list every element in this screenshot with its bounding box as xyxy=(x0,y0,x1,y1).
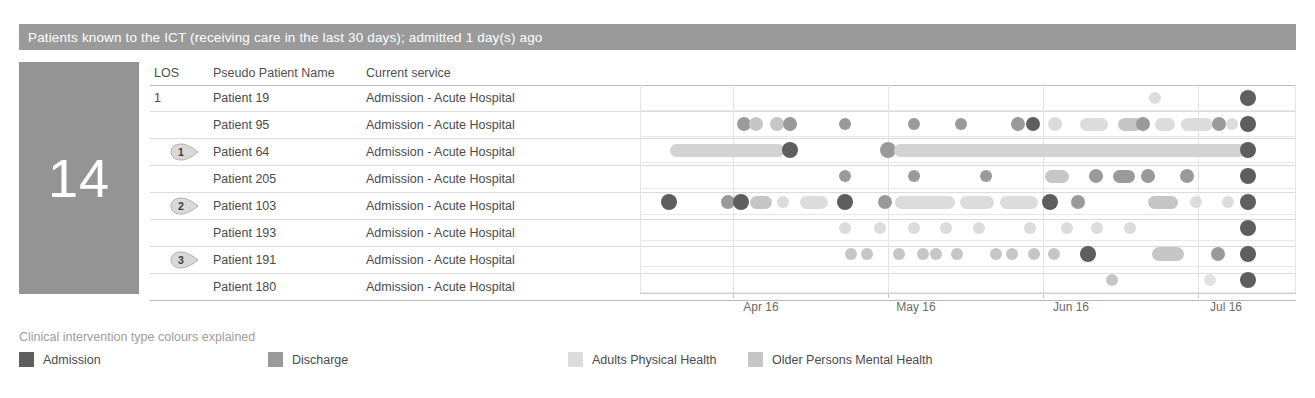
chart-interval-bar[interactable] xyxy=(894,144,1246,157)
cell-current-service: Admission - Acute Hospital xyxy=(366,280,515,294)
chart-event-dot[interactable] xyxy=(1028,248,1040,260)
legend-item[interactable]: Adults Physical Health xyxy=(568,352,716,367)
chart-event-dot[interactable] xyxy=(1240,272,1256,288)
chart-event-dot[interactable] xyxy=(1240,194,1256,210)
chart-event-dot[interactable] xyxy=(1240,246,1256,262)
column-header-name[interactable]: Pseudo Patient Name xyxy=(213,66,335,80)
chart-event-dot[interactable] xyxy=(1024,222,1036,234)
chart-interval-bar[interactable] xyxy=(960,196,994,209)
legend-item[interactable]: Admission xyxy=(19,352,101,367)
chart-event-dot[interactable] xyxy=(733,194,749,210)
cell-patient-name[interactable]: Patient 205 xyxy=(213,172,276,186)
chart-interval-bar[interactable] xyxy=(1045,170,1069,183)
chart-event-dot[interactable] xyxy=(930,248,942,260)
x-axis-tick-label: Jul 16 xyxy=(1210,300,1242,314)
cell-patient-name[interactable]: Patient 193 xyxy=(213,226,276,240)
chart-event-dot[interactable] xyxy=(1240,220,1256,236)
chart-event-dot[interactable] xyxy=(990,248,1002,260)
cell-patient-name[interactable]: Patient 64 xyxy=(213,145,269,159)
chart-event-dot[interactable] xyxy=(839,222,851,234)
chart-series-row xyxy=(640,241,1296,267)
chart-event-dot[interactable] xyxy=(1141,169,1155,183)
chart-event-dot[interactable] xyxy=(874,222,886,234)
legend-item[interactable]: Older Persons Mental Health xyxy=(748,352,933,367)
chart-event-dot[interactable] xyxy=(783,117,797,131)
chart-event-dot[interactable] xyxy=(917,248,929,260)
chart-event-dot[interactable] xyxy=(749,117,763,131)
chart-series-row xyxy=(640,137,1296,163)
chart-interval-bar[interactable] xyxy=(1000,196,1038,209)
chart-event-dot[interactable] xyxy=(955,118,967,130)
chart-event-dot[interactable] xyxy=(908,118,920,130)
chart-event-dot[interactable] xyxy=(1080,246,1096,262)
chart-event-dot[interactable] xyxy=(1048,117,1062,131)
priority-pin-icon[interactable]: 1 xyxy=(170,143,200,161)
chart-interval-bar[interactable] xyxy=(1152,247,1184,261)
column-header-service[interactable]: Current service xyxy=(366,66,451,80)
chart-event-dot[interactable] xyxy=(1240,90,1256,106)
chart-interval-bar[interactable] xyxy=(670,144,785,157)
cell-patient-name[interactable]: Patient 95 xyxy=(213,118,269,132)
chart-event-dot[interactable] xyxy=(1011,117,1025,131)
chart-interval-bar[interactable] xyxy=(1113,170,1135,183)
chart-event-dot[interactable] xyxy=(861,248,873,260)
chart-event-dot[interactable] xyxy=(908,170,920,182)
chart-interval-bar[interactable] xyxy=(1148,196,1178,209)
chart-event-dot[interactable] xyxy=(1106,274,1118,286)
chart-event-dot[interactable] xyxy=(1211,247,1225,261)
chart-event-dot[interactable] xyxy=(1226,118,1238,130)
cell-patient-name[interactable]: Patient 191 xyxy=(213,253,276,267)
priority-pin-icon[interactable]: 3 xyxy=(170,251,200,269)
chart-event-dot[interactable] xyxy=(1240,116,1256,132)
chart-event-dot[interactable] xyxy=(1048,248,1060,260)
chart-event-dot[interactable] xyxy=(1042,194,1058,210)
cell-patient-name[interactable]: Patient 180 xyxy=(213,280,276,294)
chart-interval-bar[interactable] xyxy=(1080,118,1108,131)
intervention-timeline-chart xyxy=(640,85,1296,294)
cell-patient-name[interactable]: Patient 19 xyxy=(213,91,269,105)
chart-event-dot[interactable] xyxy=(1124,222,1136,234)
chart-interval-bar[interactable] xyxy=(750,196,772,209)
chart-event-dot[interactable] xyxy=(837,194,853,210)
chart-event-dot[interactable] xyxy=(940,222,952,234)
chart-event-dot[interactable] xyxy=(1026,117,1040,131)
chart-event-dot[interactable] xyxy=(1061,222,1073,234)
chart-event-dot[interactable] xyxy=(770,117,784,131)
cell-patient-name[interactable]: Patient 103 xyxy=(213,199,276,213)
chart-event-dot[interactable] xyxy=(1212,117,1226,131)
chart-event-dot[interactable] xyxy=(951,248,963,260)
chart-event-dot[interactable] xyxy=(1222,196,1234,208)
chart-event-dot[interactable] xyxy=(1089,169,1103,183)
chart-event-dot[interactable] xyxy=(845,248,857,260)
chart-interval-bar[interactable] xyxy=(895,196,955,209)
chart-event-dot[interactable] xyxy=(1204,274,1216,286)
chart-event-dot[interactable] xyxy=(980,170,992,182)
column-header-los[interactable]: LOS xyxy=(154,66,179,80)
chart-event-dot[interactable] xyxy=(973,222,985,234)
chart-event-dot[interactable] xyxy=(1190,196,1202,208)
chart-event-dot[interactable] xyxy=(1149,92,1161,104)
chart-event-dot[interactable] xyxy=(1071,195,1085,209)
x-axis-tick xyxy=(733,293,734,298)
chart-event-dot[interactable] xyxy=(1091,222,1103,234)
chart-event-dot[interactable] xyxy=(1240,142,1256,158)
chart-event-dot[interactable] xyxy=(782,142,798,158)
chart-event-dot[interactable] xyxy=(893,248,905,260)
x-axis-tick xyxy=(1043,293,1044,298)
chart-interval-bar[interactable] xyxy=(1155,118,1175,131)
chart-event-dot[interactable] xyxy=(839,170,851,182)
chart-event-dot[interactable] xyxy=(1136,117,1150,131)
legend-item[interactable]: Discharge xyxy=(268,352,348,367)
chart-interval-bar[interactable] xyxy=(800,196,828,209)
chart-event-dot[interactable] xyxy=(878,195,892,209)
chart-event-dot[interactable] xyxy=(908,222,920,234)
chart-event-dot[interactable] xyxy=(1006,248,1018,260)
chart-event-dot[interactable] xyxy=(1180,169,1194,183)
chart-event-dot[interactable] xyxy=(661,194,677,210)
chart-event-dot[interactable] xyxy=(1240,168,1256,184)
chart-event-dot[interactable] xyxy=(777,196,789,208)
chart-interval-bar[interactable] xyxy=(1181,118,1213,131)
chart-event-dot[interactable] xyxy=(839,118,851,130)
x-axis-tick-label: Jun 16 xyxy=(1053,300,1089,314)
priority-pin-icon[interactable]: 2 xyxy=(170,197,200,215)
